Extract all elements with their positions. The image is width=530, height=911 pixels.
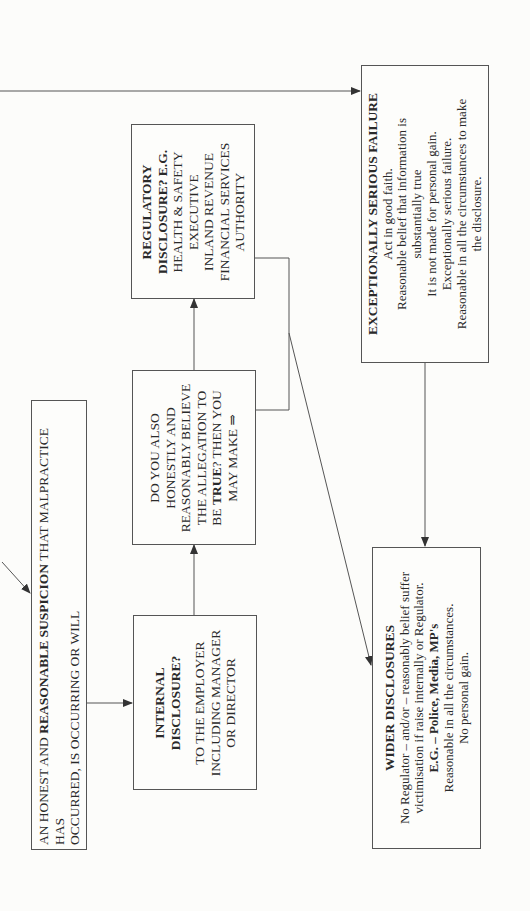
belief-text: DO YOU ALSO HONESTLY AND REASONABLY BELI… (147, 373, 240, 543)
wider-title: WIDER DISCLOSURES (381, 551, 397, 846)
wider-eg-pre: E.G. – (426, 734, 441, 772)
exceptional-line: Reasonable belief that information is (395, 69, 410, 359)
connector-bracket (254, 258, 289, 410)
belief-line: DO YOU ALSO (147, 373, 163, 543)
node-wider-disclosures: WIDER DISCLOSURES No Regulator – and/or … (372, 547, 481, 849)
belief-line: MAY MAKE ⇒ (225, 373, 241, 543)
belief-text-pre: BE (210, 505, 225, 526)
regulatory-line: AUTHORITY (232, 127, 248, 297)
internal-title: DISCLOSURE? (167, 618, 183, 788)
node-exceptional-failure: EXCEPTIONALLY SERIOUS FAILURE Act in goo… (361, 65, 489, 363)
node-internal-disclosure: INTERNAL DISCLOSURE? TO THE EMPLOYER INC… (133, 615, 257, 790)
regulatory-line: EXECUTIVE (185, 127, 201, 297)
wider-line: No personal gain. (457, 551, 472, 846)
internal-title: INTERNAL (152, 618, 168, 788)
exceptional-line: Act in good faith. (380, 69, 395, 359)
wider-line: E.G. – Police, Media, MP's (427, 551, 442, 846)
internal-line: TO THE EMPLOYER (192, 618, 208, 788)
exceptional-line: substantially true (410, 69, 425, 359)
belief-text-post: ? THEN YOU (210, 390, 225, 467)
belief-line: THE ALLEGATION TO (194, 373, 210, 543)
start-text: AN HONEST AND REASONABLE SUSPICION THAT … (36, 405, 83, 845)
belief-line: HONESTLY AND (163, 373, 179, 543)
wider-line: victimisation if raise internally or Reg… (412, 551, 427, 846)
regulatory-title: DISCLOSURE? E.G. (154, 127, 170, 297)
arrow-entry-to-start (2, 562, 30, 593)
wider-line: Reasonable in all the circumstances. (442, 551, 457, 846)
start-text-pre: AN HONEST AND (36, 734, 51, 845)
node-start-suspicion: AN HONEST AND REASONABLE SUSPICION THAT … (31, 400, 87, 850)
wider-line: No Regulator – and/or – reasonably belie… (397, 551, 412, 846)
regulatory-line: INLAND REVENUE (201, 127, 217, 297)
node-belief-question: DO YOU ALSO HONESTLY AND REASONABLY BELI… (132, 370, 256, 545)
start-line: OCCURRED, IS OCCURRING OR WILL (67, 405, 83, 845)
wider-eg-bold: Police, Media, MP's (426, 624, 441, 734)
exceptional-line: Exceptionally serious failure. (440, 69, 455, 359)
exceptional-line: Reasonable in all the circumstances to m… (455, 69, 470, 359)
start-text-bold: REASONABLE SUSPICION (36, 564, 51, 734)
exceptional-line: the disclosure. (470, 69, 485, 359)
regulatory-title: REGULATORY (139, 127, 155, 297)
exceptional-line: It is not made for personal gain. (425, 69, 440, 359)
exceptional-text: EXCEPTIONALLY SERIOUS FAILURE Act in goo… (365, 69, 485, 359)
belief-line: REASONABLY BELIEVE (178, 373, 194, 543)
node-regulatory-disclosure: REGULATORY DISCLOSURE? E.G. HEALTH & SAF… (131, 124, 255, 299)
internal-line: INCLUDING MANAGER (207, 618, 223, 788)
start-line: AN HONEST AND REASONABLE SUSPICION THAT … (36, 405, 67, 845)
regulatory-line: FINANCIAL SERVICES (216, 127, 232, 297)
exceptional-title: EXCEPTIONALLY SERIOUS FAILURE (365, 69, 381, 359)
regulatory-line: HEALTH & SAFETY (170, 127, 186, 297)
wider-text: WIDER DISCLOSURES No Regulator – and/or … (381, 551, 471, 846)
internal-line: OR DIRECTOR (223, 618, 239, 788)
arrow-regulatory-to-wider (289, 333, 371, 665)
regulatory-text: REGULATORY DISCLOSURE? E.G. HEALTH & SAF… (139, 127, 248, 297)
internal-text: INTERNAL DISCLOSURE? TO THE EMPLOYER INC… (152, 618, 239, 788)
belief-text-bold: TRUE (210, 467, 225, 505)
belief-line: BE TRUE? THEN YOU (210, 373, 226, 543)
